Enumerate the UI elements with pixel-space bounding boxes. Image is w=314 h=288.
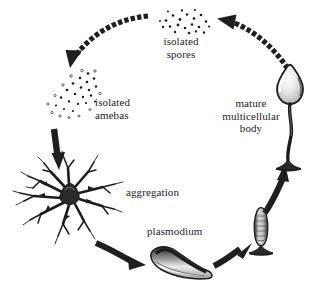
label-isolated-amebas-line1: isolated [95, 96, 157, 109]
label-plasmodium: plasmodium [147, 225, 215, 238]
arrow-plasmodium-to-culmination [214, 243, 252, 266]
isolated-spores-cluster [159, 9, 210, 34]
arrow-spores-to-amebas [66, 16, 149, 68]
arrow-mature-body-to-spores [217, 15, 291, 75]
culmination-structure [249, 208, 273, 255]
plasmodium-body [151, 247, 212, 279]
aggregation-structure [13, 151, 123, 244]
label-isolated-amebas: isolated amebas [95, 96, 157, 121]
label-isolated-spores: isolated spores [150, 35, 212, 60]
label-aggregation: aggregation [126, 186, 198, 199]
label-mature-body-line2: multicellular [215, 110, 287, 123]
life-cycle-diagram: isolated spores isolated amebas mature m… [0, 0, 314, 288]
label-isolated-spores-line1: isolated [150, 35, 212, 48]
arrow-aggregation-to-plasmodium [96, 243, 146, 270]
arrow-amebas-to-aggregation [52, 129, 66, 170]
label-mature-body-line3: body [215, 122, 287, 135]
label-isolated-amebas-line2: amebas [95, 109, 157, 122]
label-mature-multicellular-body: mature multicellular body [215, 97, 287, 135]
label-isolated-spores-line2: spores [150, 48, 212, 61]
label-mature-body-line1: mature [215, 97, 287, 110]
isolated-amebas-cluster [47, 69, 101, 118]
